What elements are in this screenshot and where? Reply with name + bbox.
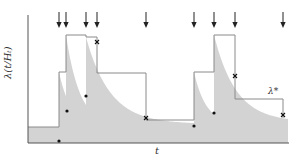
event-arrows: [56, 12, 285, 28]
down-arrow-icon: [56, 12, 61, 28]
down-arrow-icon: [83, 12, 88, 28]
x-axis-label: t: [155, 146, 159, 156]
accepted-dot-marker-icon: [57, 139, 60, 142]
down-arrow-icon: [63, 12, 68, 28]
down-arrow-icon: [94, 12, 99, 28]
down-arrow-icon: [143, 12, 148, 28]
intensity-figure: λ(t/Hₜ) t λ*: [0, 0, 297, 166]
down-arrow-icon: [191, 12, 196, 28]
accepted-dot-marker-icon: [192, 124, 195, 127]
intensity-plot: [0, 0, 297, 166]
intensity-fill: [28, 35, 288, 143]
accepted-dot-marker-icon: [212, 111, 215, 114]
accepted-dot-marker-icon: [84, 94, 87, 97]
down-arrow-icon: [232, 12, 237, 28]
y-axis-label: λ(t/Hₜ): [3, 46, 13, 79]
lambda-star-label: λ*: [268, 87, 278, 96]
intensity-area: [28, 35, 288, 143]
accepted-dot-marker-icon: [65, 109, 68, 112]
down-arrow-icon: [280, 12, 285, 28]
down-arrow-icon: [211, 12, 216, 28]
